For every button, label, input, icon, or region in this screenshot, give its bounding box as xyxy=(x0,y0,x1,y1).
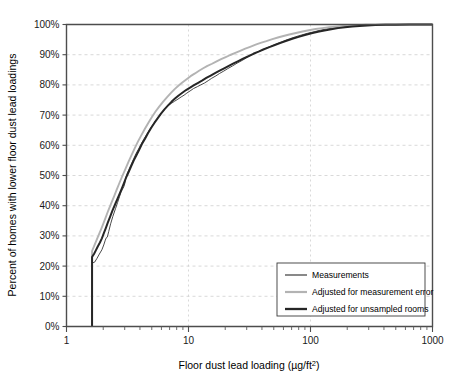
chart-container: 0%10%20%30%40%50%60%70%80%90%100% 110100… xyxy=(0,0,463,385)
cdf-line-chart: 0%10%20%30%40%50%60%70%80%90%100% 110100… xyxy=(0,0,463,385)
x-tick-label: 1 xyxy=(64,335,70,346)
legend-label-1: Adjusted for measurement error xyxy=(312,287,433,297)
y-tick-label: 90% xyxy=(39,49,59,60)
y-tick-label: 30% xyxy=(39,230,59,241)
y-tick-label: 80% xyxy=(39,79,59,90)
y-tick-label: 100% xyxy=(34,19,60,30)
x-tick-label: 1000 xyxy=(421,335,444,346)
y-tick-label: 0% xyxy=(45,321,60,332)
x-axis-tick-labels: 1101001000 xyxy=(64,335,444,346)
y-tick-label: 10% xyxy=(39,291,59,302)
x-axis-title-main: Floor dust lead loading (µg/ft xyxy=(179,359,312,371)
y-tick-label: 50% xyxy=(39,170,59,181)
y-tick-label: 20% xyxy=(39,261,59,272)
x-tick-label: 100 xyxy=(302,335,319,346)
y-tick-label: 40% xyxy=(39,200,59,211)
chart-legend: MeasurementsAdjusted for measurement err… xyxy=(277,263,433,316)
y-tick-label: 70% xyxy=(39,110,59,121)
x-axis-ticks xyxy=(67,327,433,333)
legend-label-2: Adjusted for unsampled rooms xyxy=(312,304,429,314)
x-axis-title-tail: ) xyxy=(316,359,320,371)
horizontal-gridlines xyxy=(67,55,433,297)
legend-label-0: Measurements xyxy=(312,270,369,280)
y-tick-label: 60% xyxy=(39,140,59,151)
y-axis-tick-labels: 0%10%20%30%40%50%60%70%80%90%100% xyxy=(34,19,60,332)
x-tick-label: 10 xyxy=(183,335,195,346)
y-axis-title: Percent of homes with lower floor dust l… xyxy=(6,54,18,297)
x-axis-title: Floor dust lead loading (µg/ft2) xyxy=(179,359,320,371)
